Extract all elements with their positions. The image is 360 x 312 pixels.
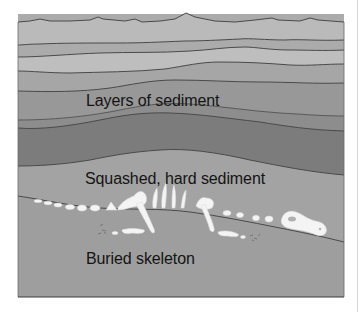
toe-bone bbox=[112, 232, 118, 235]
label-layers-of-sediment: Layers of sediment bbox=[86, 92, 219, 110]
tail-bone bbox=[44, 201, 52, 205]
rear-foot-bone bbox=[122, 229, 144, 234]
skull-nostril bbox=[319, 228, 321, 230]
neck-bone bbox=[237, 213, 244, 218]
toe-bone bbox=[241, 236, 246, 239]
label-squashed-hard-sediment: Squashed, hard sediment bbox=[85, 170, 265, 188]
tail-bone bbox=[66, 205, 75, 210]
tail-bone bbox=[78, 205, 87, 211]
skull-eye-socket bbox=[288, 217, 296, 222]
neck-bone bbox=[223, 211, 231, 216]
tail-bone bbox=[54, 203, 62, 207]
neck-bone bbox=[265, 216, 273, 222]
tail-bone bbox=[90, 205, 100, 211]
tail-bone bbox=[34, 199, 42, 202]
page-edge-divider bbox=[357, 0, 358, 312]
neck-bone bbox=[253, 215, 260, 221]
label-buried-skeleton: Buried skeleton bbox=[86, 250, 195, 268]
